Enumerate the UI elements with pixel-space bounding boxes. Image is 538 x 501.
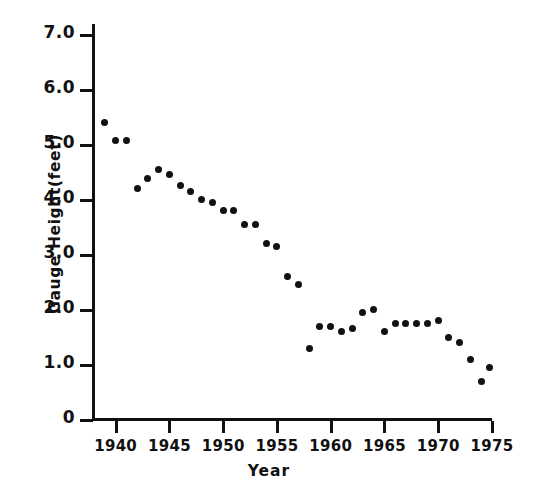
x-tick-1950 (222, 421, 225, 433)
data-point (467, 356, 474, 363)
data-point (230, 207, 237, 214)
data-point (435, 317, 442, 324)
y-tick-label-6.0: 6.0 (15, 82, 75, 92)
data-point (177, 182, 184, 189)
data-point (263, 240, 270, 247)
data-point (456, 339, 463, 346)
data-point (198, 196, 205, 203)
x-tick-label-1960: 1960 (301, 437, 361, 455)
y-tick-7.0 (80, 34, 93, 37)
x-tick-label-1965: 1965 (354, 437, 414, 455)
x-tick-1960 (330, 421, 333, 433)
y-tick-label-5.0: 5.0 (15, 137, 75, 147)
data-point (134, 185, 141, 192)
y-tick-6.0 (80, 89, 93, 92)
x-tick-label-1945: 1945 (139, 437, 199, 455)
data-point (338, 328, 345, 335)
x-tick-label-1940: 1940 (86, 437, 146, 455)
y-tick-label-4.0: 4.0 (15, 192, 75, 202)
x-tick-1955 (276, 421, 279, 433)
data-point (316, 323, 323, 330)
x-axis-line (92, 418, 492, 421)
y-tick-label-7.0: 7.0 (15, 27, 75, 37)
data-point (413, 320, 420, 327)
x-tick-1975 (491, 421, 494, 433)
data-point (295, 281, 302, 288)
x-tick-label-1955: 1955 (247, 437, 307, 455)
data-point (273, 243, 280, 250)
data-point (478, 378, 485, 385)
data-point (424, 320, 431, 327)
data-point (284, 273, 291, 280)
data-point (123, 137, 130, 144)
y-tick-0 (80, 419, 93, 422)
y-tick-3.0 (80, 254, 93, 257)
data-point (220, 207, 227, 214)
y-tick-label-1.0: 1.0 (15, 357, 75, 367)
data-point (381, 328, 388, 335)
data-point (112, 137, 119, 144)
y-axis-line (92, 24, 95, 421)
data-point (101, 119, 108, 126)
data-point (445, 334, 452, 341)
data-point (144, 175, 151, 182)
data-point (306, 345, 313, 352)
y-tick-4.0 (80, 199, 93, 202)
y-tick-label-0: 0 (15, 412, 75, 422)
x-tick-1945 (168, 421, 171, 433)
x-tick-1965 (383, 421, 386, 433)
data-point (327, 323, 334, 330)
data-point (155, 166, 162, 173)
x-tick-1940 (115, 421, 118, 433)
data-point (187, 188, 194, 195)
data-point (402, 320, 409, 327)
y-tick-label-3.0: 3.0 (15, 247, 75, 257)
x-tick-label-1975: 1975 (462, 437, 522, 455)
gauge-height-scatter-chart: 01.02.03.04.05.06.07.0 19401945195019551… (0, 0, 538, 501)
plot-area: 01.02.03.04.05.06.07.0 19401945195019551… (0, 0, 538, 501)
data-point (370, 306, 377, 313)
x-axis-title: Year (0, 462, 538, 480)
y-axis-title: Gauge Height(feet) (46, 94, 64, 354)
y-tick-label-2.0: 2.0 (15, 302, 75, 312)
y-tick-1.0 (80, 364, 93, 367)
y-tick-2.0 (80, 309, 93, 312)
data-point (166, 171, 173, 178)
x-tick-label-1970: 1970 (408, 437, 468, 455)
data-point (209, 199, 216, 206)
x-tick-1970 (437, 421, 440, 433)
data-point (486, 364, 493, 371)
data-point (392, 320, 399, 327)
y-tick-5.0 (80, 144, 93, 147)
data-point (241, 221, 248, 228)
data-point (359, 309, 366, 316)
data-point (349, 325, 356, 332)
data-point (252, 221, 259, 228)
x-tick-label-1950: 1950 (193, 437, 253, 455)
